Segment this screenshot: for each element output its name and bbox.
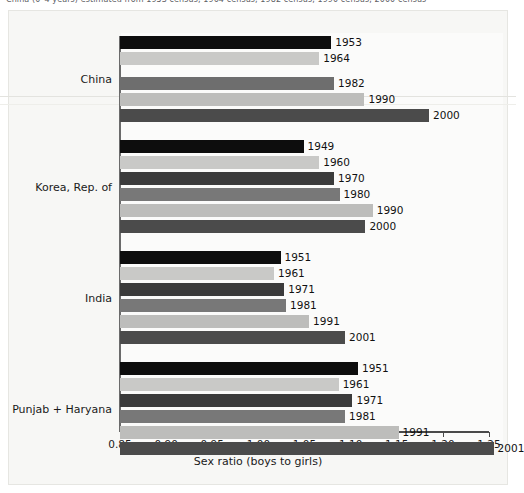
bar-value-label: 1991	[403, 426, 430, 439]
bar	[120, 251, 281, 264]
bar	[120, 172, 334, 185]
bar-value-label: 1990	[377, 204, 404, 217]
bar-value-label: 1964	[323, 52, 350, 65]
figure-caption-strip: China (0–4 years) estimated from 1953 ce…	[0, 0, 516, 9]
group-label-punjab-haryana: Punjab + Haryana	[0, 402, 112, 415]
bar-value-label: 2001	[349, 331, 376, 344]
bar-value-label: 1971	[356, 394, 383, 407]
bar	[120, 140, 304, 153]
bar	[120, 220, 365, 233]
group-label-korea-rep-of: Korea, Rep. of	[0, 180, 112, 193]
bar-value-label: 1982	[338, 77, 365, 90]
x-tick-mark	[443, 432, 444, 437]
bar	[120, 299, 286, 312]
x-tick-mark	[489, 432, 490, 437]
bar	[120, 52, 319, 65]
bar-value-label: 1971	[288, 283, 315, 296]
bar-value-label: 1961	[343, 378, 370, 391]
bar	[120, 410, 345, 423]
x-axis-title: Sex ratio (boys to girls)	[0, 455, 516, 468]
bar	[120, 36, 331, 49]
bar	[120, 109, 429, 122]
bar	[120, 362, 358, 375]
group-label-china: China	[0, 73, 112, 86]
bar	[120, 331, 345, 344]
bar-value-label: 1951	[285, 251, 312, 264]
bar-value-label: 1981	[290, 299, 317, 312]
bar	[120, 204, 373, 217]
bar-value-label: 1981	[349, 410, 376, 423]
bar	[120, 442, 494, 455]
bar-value-label: 1960	[323, 156, 350, 169]
bar	[120, 267, 274, 280]
bar	[120, 188, 340, 201]
bar-value-label: 2001	[498, 442, 524, 455]
figure-caption-text: China (0–4 years) estimated from 1953 ce…	[6, 0, 426, 4]
bar-value-label: 2000	[369, 220, 396, 233]
bar	[120, 315, 309, 328]
bar	[120, 394, 352, 407]
bar	[120, 283, 284, 296]
bar-value-label: 1990	[368, 93, 395, 106]
bar-value-label: 2000	[433, 109, 460, 122]
bar-value-label: 1991	[313, 315, 340, 328]
bar-value-label: 1970	[338, 172, 365, 185]
bar	[120, 378, 339, 391]
bar	[120, 156, 319, 169]
bar-value-label: 1980	[344, 188, 371, 201]
bar	[120, 426, 399, 439]
bar-value-label: 1961	[278, 267, 305, 280]
group-label-india: India	[0, 291, 112, 304]
bar-value-label: 1949	[308, 140, 335, 153]
bar-value-label: 1951	[362, 362, 389, 375]
bar	[120, 77, 334, 90]
bar	[120, 93, 364, 106]
bar-value-label: 1953	[335, 36, 362, 49]
